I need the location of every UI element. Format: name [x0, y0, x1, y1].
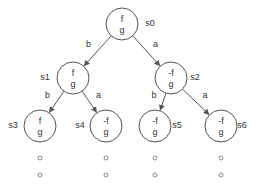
continuation-dot [38, 173, 42, 177]
nodes: fgs0fgs1-fgs2fgs3-fgs4-fgs5-fgs6 [8, 8, 247, 142]
state-label: s4 [75, 120, 85, 130]
continuation-dot [38, 156, 42, 160]
state-circle [90, 110, 122, 142]
computation-tree-diagram: bababa fgs0fgs1-fgs2fgs3-fgs4-fgs5-fgs6 [0, 0, 256, 189]
state-proposition: g [168, 79, 173, 89]
state-label: s5 [172, 120, 182, 130]
edge-label: b [151, 90, 156, 100]
edge-s0-s1: b [84, 36, 111, 66]
state-node-s4: -fgs4 [75, 110, 122, 142]
state-proposition: -f [168, 68, 174, 78]
continuation-dots [38, 156, 223, 177]
edge-arrow [50, 91, 64, 112]
continuation-dot [219, 173, 223, 177]
state-circle [205, 110, 237, 142]
state-label: s6 [237, 120, 247, 130]
state-proposition: -f [103, 116, 109, 126]
state-proposition: g [119, 25, 124, 35]
edge-s2-s5: b [151, 90, 165, 110]
continuation-dot [104, 173, 108, 177]
state-node-s0: fgs0 [106, 8, 155, 40]
state-proposition: g [70, 79, 75, 89]
state-proposition: -f [218, 116, 224, 126]
continuation-dot [219, 156, 223, 160]
state-proposition: g [152, 127, 157, 137]
edge-label: a [153, 39, 158, 49]
state-circle [155, 62, 187, 94]
state-circle [139, 110, 171, 142]
state-circle [57, 62, 89, 94]
edge-label: a [96, 90, 101, 100]
edge-s1-s4: a [82, 90, 101, 112]
continuation-dot [153, 156, 157, 160]
edge-label: b [45, 90, 50, 100]
state-label: s2 [190, 72, 200, 82]
edge-s0-s2: a [133, 36, 160, 66]
state-proposition: g [218, 127, 223, 137]
continuation-dot [104, 156, 108, 160]
edge-label: a [202, 90, 207, 100]
state-proposition: g [103, 127, 108, 137]
continuation-dot [153, 173, 157, 177]
state-proposition: -f [152, 116, 158, 126]
state-node-s2: -fgs2 [155, 62, 200, 94]
state-node-s5: -fgs5 [139, 110, 182, 142]
state-label: s0 [145, 18, 155, 28]
state-proposition: g [37, 127, 42, 137]
state-circle [24, 110, 56, 142]
edge-label: b [86, 39, 91, 49]
edge-arrow [82, 91, 96, 112]
state-label: s1 [40, 72, 50, 82]
state-circle [106, 8, 138, 40]
edge-s2-s6: a [183, 89, 209, 114]
state-node-s6: -fgs6 [205, 110, 247, 142]
state-label: s3 [8, 120, 18, 130]
edge-arrow [160, 93, 166, 110]
edge-s1-s3: b [45, 90, 64, 112]
state-node-s3: fgs3 [8, 110, 56, 142]
